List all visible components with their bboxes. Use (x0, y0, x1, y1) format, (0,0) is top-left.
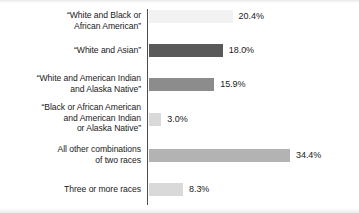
value-label: 34.4% (296, 149, 321, 162)
bar[interactable] (149, 149, 290, 162)
category-label: “White and American Indian and Alaska Na… (5, 73, 141, 94)
value-label: 8.3% (189, 183, 209, 196)
category-label: Three or more races (5, 184, 141, 195)
bar[interactable] (149, 113, 161, 126)
bar[interactable] (149, 78, 214, 91)
value-label: 20.4% (239, 10, 264, 23)
category-label: “White and Black or African American” (5, 10, 141, 31)
bar-chart: “White and Black or African American” 20… (0, 0, 359, 213)
category-axis-line (147, 9, 148, 205)
category-label: “White and Asian” (5, 45, 141, 56)
bar[interactable] (149, 44, 223, 57)
bar[interactable] (149, 10, 233, 23)
category-label: “Black or African American and American … (5, 102, 141, 134)
value-label: 15.9% (220, 78, 245, 91)
chart-plot-area: “White and Black or African American” 20… (0, 0, 359, 213)
category-label: All other combinations of two races (5, 144, 141, 165)
value-label: 18.0% (229, 44, 254, 57)
bar[interactable] (149, 183, 183, 196)
value-label: 3.0% (167, 113, 187, 126)
